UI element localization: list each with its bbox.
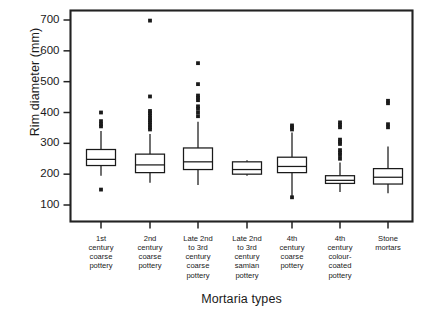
box-iqr (136, 154, 165, 173)
box-plot-group (136, 19, 165, 183)
x-axis-tick-label-line: 2nd (125, 234, 175, 243)
x-axis-tick-label-line: Late 2nd (173, 234, 223, 243)
outlier-point (196, 94, 200, 98)
outlier-point (338, 148, 342, 152)
x-axis-tick-label-line: Stone (363, 234, 413, 243)
box-plots (87, 19, 403, 199)
y-axis-tick-label: 700 (20, 13, 60, 25)
y-axis-title: Rim diameter (mm) (28, 0, 42, 177)
outlier-point (338, 138, 342, 142)
x-axis-tick-label: Stonemortars (363, 234, 413, 253)
x-axis-tick-label-line: century (173, 252, 223, 261)
outlier-point (99, 119, 103, 123)
x-axis-title: Mortaria types (70, 292, 413, 306)
x-axis-tick-label: Late 2ndto 3rdcenturysamianpottery (222, 234, 272, 280)
outlier-point (148, 109, 152, 113)
box-plot-group (87, 111, 116, 192)
y-axis-tick-label: 100 (20, 198, 60, 210)
box-iqr (326, 176, 355, 184)
x-axis-tick-label: 4thcenturycoarsepottery (267, 234, 317, 271)
x-axis-tick-label-line: pottery (125, 261, 175, 270)
x-axis-tick-label-line: mortars (363, 243, 413, 252)
x-axis-tick-label-line: Late 2nd (222, 234, 272, 243)
x-axis-tick-label: 4thcenturycolour-coatedpottery (315, 234, 365, 280)
x-axis-tick-label-line: century (222, 252, 272, 261)
box-iqr (278, 157, 307, 172)
y-axis-tick-label: 200 (20, 167, 60, 179)
x-axis-tick-label-line: coated (315, 261, 365, 270)
x-axis-tick-label: 1stcenturycoarsepottery (76, 234, 126, 271)
outlier-point (196, 61, 200, 65)
outlier-point (338, 120, 342, 124)
box-iqr (184, 148, 213, 170)
outlier-point (196, 114, 200, 118)
outlier-point (196, 111, 200, 115)
plot-frame (71, 11, 413, 222)
outlier-point (196, 104, 200, 108)
box-plot-group (184, 61, 213, 185)
x-axis-tick-label-line: pottery (76, 261, 126, 270)
outlier-point (386, 99, 390, 103)
x-axis-tick-label-line: coarse (267, 252, 317, 261)
x-axis-tick-label-line: century (125, 243, 175, 252)
outlier-point (196, 82, 200, 86)
x-axis-tick-label-line: pottery (315, 271, 365, 280)
x-axis-tick-label-line: 1st (76, 234, 126, 243)
x-axis-tick-label-line: colour- (315, 252, 365, 261)
x-axis-tick-label-line: coarse (76, 252, 126, 261)
x-axis-tick-label-line: samian (222, 261, 272, 270)
y-axis-tick-label: 400 (20, 106, 60, 118)
outlier-point (386, 122, 390, 126)
x-axis-tick-label-line: pottery (267, 261, 317, 270)
x-axis-tick-label-line: century (76, 243, 126, 252)
x-axis-tick-label-line: 4th (315, 234, 365, 243)
x-axis-tick-label-line: century (315, 243, 365, 252)
outlier-point (338, 157, 342, 161)
box-plot-group (374, 99, 403, 193)
x-axis-tick-label-line: to 3rd (222, 243, 272, 252)
x-axis-tick-label: Late 2ndto 3rdcenturycoarsepottery (173, 234, 223, 280)
outlier-point (99, 111, 103, 115)
x-axis-tick-label-line: century (267, 243, 317, 252)
x-axis-tick-label-line: to 3rd (173, 243, 223, 252)
x-axis-tick-label-line: 4th (267, 234, 317, 243)
outlier-point (99, 188, 103, 192)
y-axis-tick-label: 500 (20, 75, 60, 87)
x-axis-tick-label-line: coarse (125, 252, 175, 261)
x-axis-tick-label: 2ndcenturycoarsepottery (125, 234, 175, 271)
x-axis-tick-label-line: pottery (173, 271, 223, 280)
boxplot-figure: Rim diameter (mm) Mortaria types 7006005… (0, 0, 425, 315)
box-iqr (374, 169, 403, 184)
y-axis-tick-label: 300 (20, 136, 60, 148)
box-plot-group (233, 160, 262, 175)
box-plot-group (326, 120, 355, 192)
box-iqr (87, 150, 116, 166)
outlier-point (148, 19, 152, 23)
x-axis-tick-label-line: pottery (222, 271, 272, 280)
box-iqr (233, 162, 262, 174)
y-axis-tick-label: 600 (20, 44, 60, 56)
outlier-point (290, 124, 294, 128)
outlier-point (290, 195, 294, 199)
box-plot-group (278, 124, 307, 200)
outlier-point (148, 95, 152, 99)
x-axis-tick-label-line: coarse (173, 261, 223, 270)
